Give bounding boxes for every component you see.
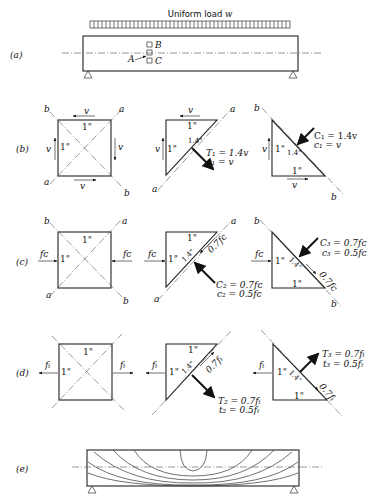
element-a xyxy=(147,50,152,55)
svg-text:1.4": 1.4" xyxy=(188,137,202,145)
support-right xyxy=(289,71,297,78)
svg-text:1": 1" xyxy=(277,367,287,377)
svg-text:a: a xyxy=(44,177,49,187)
support-left xyxy=(84,71,92,78)
stress-trajectories xyxy=(88,450,298,486)
svg-text:b: b xyxy=(254,103,260,113)
t1-stress: t₁ = v xyxy=(208,157,234,167)
panel-b: (b) b a a b v 1" v v 1" v a a v 1" v 1" … xyxy=(16,103,358,202)
svg-text:b: b xyxy=(44,104,50,114)
svg-text:0.7fᴄ: 0.7fᴄ xyxy=(206,232,229,255)
panel-label-d: (d) xyxy=(16,368,29,378)
svg-text:0.7fᴄ: 0.7fᴄ xyxy=(317,269,339,293)
svg-text:1": 1" xyxy=(275,256,285,266)
svg-text:1": 1" xyxy=(187,121,197,131)
c3-label: C₃ = 0.7fᴄ xyxy=(320,238,366,248)
c2-stress: c₂ = 0.5fᴄ xyxy=(217,289,262,299)
c1-stress: c₁ = v xyxy=(314,140,341,150)
t2-stress: t₂ = 0.5fₜ xyxy=(219,405,260,415)
svg-text:a: a xyxy=(230,104,235,114)
panel-d: (d) 1" 1" fₜ fₜ 1" 1" fₜ 1.4" 0.7fₜ T₂ =… xyxy=(16,330,366,416)
svg-text:v: v xyxy=(118,142,123,152)
svg-text:fᴄ: fᴄ xyxy=(254,249,263,259)
c3-stress: c₃ = 0.5fᴄ xyxy=(322,248,367,258)
beam xyxy=(83,36,298,71)
svg-text:a: a xyxy=(231,216,236,226)
shear-stress-figure: Uniform load w B C A (a) (b) b a a b v 1… xyxy=(0,0,376,504)
svg-text:v: v xyxy=(80,181,85,191)
svg-text:1": 1" xyxy=(292,166,302,176)
svg-text:fₜ: fₜ xyxy=(119,360,126,370)
uniform-load-bar xyxy=(90,21,290,28)
t3-stress: t₃ = 0.5fₜ xyxy=(323,359,364,369)
svg-text:v: v xyxy=(46,144,51,154)
panel-a: Uniform load w B C A (a) xyxy=(10,9,322,78)
svg-text:1": 1" xyxy=(167,144,177,154)
element-c xyxy=(147,58,152,63)
svg-text:b: b xyxy=(254,216,260,226)
svg-text:v: v xyxy=(155,144,160,154)
panel-label-e: (e) xyxy=(16,464,29,474)
panel-label-c: (c) xyxy=(16,257,29,267)
svg-text:0.7fₜ: 0.7fₜ xyxy=(204,353,226,375)
svg-text:1": 1" xyxy=(60,142,70,152)
svg-text:v: v xyxy=(188,105,193,115)
svg-text:v: v xyxy=(292,180,297,190)
svg-text:a: a xyxy=(154,294,159,304)
t3-label: T₃ = 0.7fₜ xyxy=(322,349,366,359)
panel-e: (e) xyxy=(16,450,322,493)
svg-text:a: a xyxy=(152,184,157,194)
svg-text:1": 1" xyxy=(83,347,93,357)
load-label: Uniform load w xyxy=(168,9,233,19)
svg-text:1": 1" xyxy=(294,391,304,401)
svg-text:fᴄ: fᴄ xyxy=(122,249,131,259)
svg-text:b: b xyxy=(44,216,50,226)
panel-label-b: (b) xyxy=(16,144,29,154)
svg-text:fₜ: fₜ xyxy=(151,360,158,370)
point-a-label: A xyxy=(127,54,135,64)
svg-text:a: a xyxy=(119,104,124,114)
svg-text:1.4": 1.4" xyxy=(287,149,301,157)
svg-text:1": 1" xyxy=(187,233,197,243)
svg-text:fₜ: fₜ xyxy=(258,360,265,370)
svg-text:1": 1" xyxy=(169,367,179,377)
panel-label-a: (a) xyxy=(10,50,23,60)
svg-text:v: v xyxy=(262,144,267,154)
svg-text:b: b xyxy=(123,296,129,306)
svg-text:b: b xyxy=(331,299,337,309)
panel-c: (c) b a a b 1" 1" fᴄ fᴄ a a 1" 1" fᴄ 1.4… xyxy=(16,216,367,309)
svg-text:1": 1" xyxy=(60,254,70,264)
svg-text:a: a xyxy=(122,216,127,226)
svg-text:1": 1" xyxy=(168,254,178,264)
svg-text:1": 1" xyxy=(188,345,198,355)
svg-text:1": 1" xyxy=(61,367,71,377)
element-b xyxy=(147,42,152,47)
svg-text:1": 1" xyxy=(275,144,285,154)
svg-text:b: b xyxy=(331,192,337,202)
point-b-label: B xyxy=(154,40,162,50)
svg-text:1.4": 1.4" xyxy=(287,256,303,272)
point-c-label: C xyxy=(155,56,162,66)
svg-text:1": 1" xyxy=(82,235,92,245)
svg-text:fᴄ: fᴄ xyxy=(39,249,48,259)
svg-text:fᴄ: fᴄ xyxy=(147,249,156,259)
svg-text:b: b xyxy=(124,188,130,198)
svg-text:v: v xyxy=(84,106,89,116)
svg-text:fₜ: fₜ xyxy=(44,360,51,370)
svg-text:1": 1" xyxy=(82,122,92,132)
svg-text:1": 1" xyxy=(292,279,302,289)
svg-text:a: a xyxy=(46,290,51,300)
svg-text:1.4": 1.4" xyxy=(180,360,196,376)
